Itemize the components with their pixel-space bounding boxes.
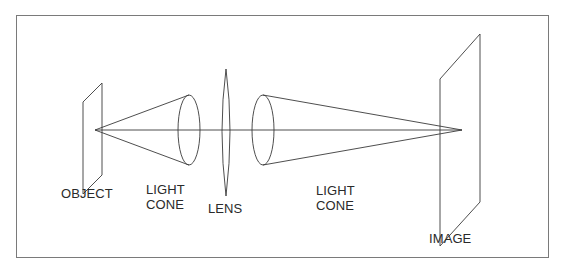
light-cone-1-label-line2: CONE [146,197,185,212]
image-label: IMAGE [429,231,471,246]
light-cone-2-label-line1: LIGHT [316,183,355,198]
lens-label-text: LENS [208,201,242,216]
diagram-frame [17,16,549,258]
lens [222,69,230,196]
lens-label: LENS [208,201,242,216]
light-cone-1-label-line1: LIGHT [146,182,185,197]
image-label-text: IMAGE [429,231,471,246]
light-cone-2-label-line2: CONE [316,198,355,213]
cone-1-upper-ray [95,95,189,130]
light-cone-1-label: LIGHT CONE [146,182,185,212]
optics-diagram [0,0,561,270]
object-plane [83,83,102,194]
cone-1-lower-ray [95,130,189,165]
object-label-text: OBJECT [61,186,113,201]
cone-2-upper-ray [263,95,462,130]
object-label: OBJECT [61,186,113,201]
cone-2-lower-ray [263,130,462,165]
image-plane [440,34,480,246]
light-cone-2-label: LIGHT CONE [316,183,355,213]
